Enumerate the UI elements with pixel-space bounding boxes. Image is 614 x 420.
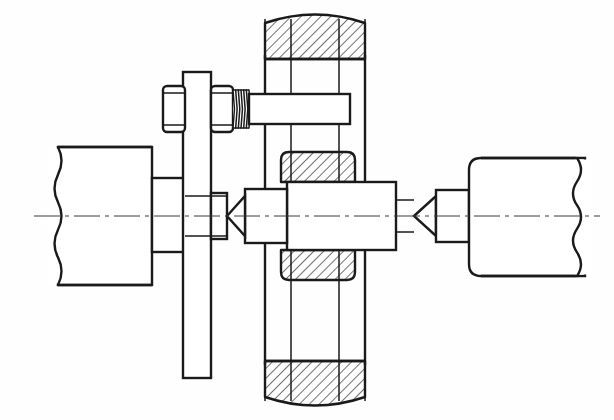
vertical-support-plate: [183, 72, 211, 378]
technical-drawing-svg: [0, 0, 614, 420]
bearing-collar-top-hatch: [281, 152, 355, 182]
drawing-canvas: [0, 0, 614, 420]
drawing-layer: [34, 15, 600, 406]
bearing-collar-bottom-hatch: [281, 250, 355, 280]
break-mask: [575, 160, 591, 275]
yoke-bottom-cap-hatch: [265, 361, 365, 406]
yoke-top-cap-hatch: [265, 15, 365, 60]
left-shaft-stub: [152, 178, 185, 252]
right-end-block: [469, 158, 585, 276]
horizontal-cross-bar: [249, 94, 350, 124]
